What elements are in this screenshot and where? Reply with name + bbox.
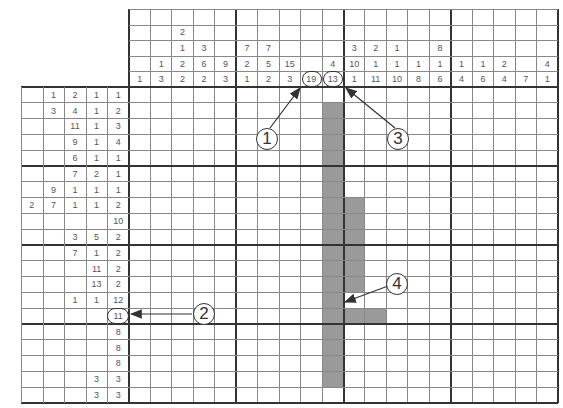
annotation-1-label: 1: [262, 129, 271, 149]
annotation-arrows: [0, 0, 563, 408]
annotation-4-label: 4: [392, 274, 401, 294]
annotation-3: 3: [387, 128, 409, 150]
annotation-4: 4: [386, 273, 408, 295]
annotation-1: 1: [256, 128, 278, 150]
annotation-2: 2: [193, 303, 215, 325]
annotation-3-label: 3: [393, 129, 402, 149]
annotation-2-label: 2: [199, 304, 208, 324]
